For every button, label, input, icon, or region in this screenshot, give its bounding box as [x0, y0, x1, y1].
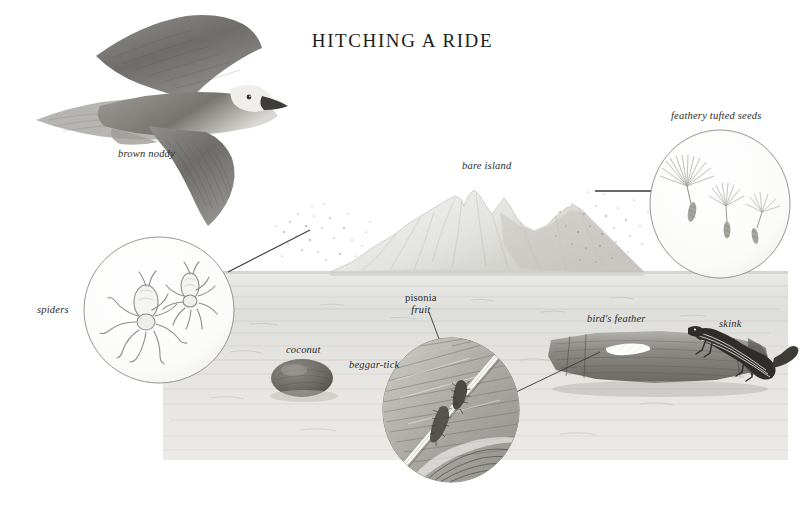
- label-beggar-tick: beggar-tick: [349, 359, 399, 371]
- label-pisonia-fruit: pisonia fruit: [405, 292, 437, 316]
- leader-spiders: [228, 230, 310, 272]
- spiders-magnifier: [84, 237, 234, 383]
- page-title: HITCHING A RIDE: [0, 30, 805, 52]
- label-bare-island: bare island: [462, 160, 511, 172]
- label-feathery-tufted-seeds: feathery tufted seeds: [671, 110, 762, 122]
- label-pisonia-line2: fruit: [405, 304, 437, 316]
- dot-cloud-left: [276, 204, 371, 261]
- feather-magnifier: [383, 338, 519, 484]
- label-pisonia-line1: pisonia: [405, 292, 437, 304]
- label-birds-feather: bird's feather: [587, 313, 646, 325]
- label-coconut: coconut: [286, 344, 321, 356]
- label-spiders: spiders: [37, 304, 69, 316]
- label-skink: skink: [719, 318, 742, 330]
- bare-island-artwork: [330, 190, 644, 276]
- seeds-magnifier: [650, 130, 790, 278]
- plate-artwork: [0, 0, 805, 511]
- illustration-plate: HITCHING A RIDE brown noddy bare island …: [0, 0, 805, 511]
- label-brown-noddy: brown noddy: [118, 148, 175, 160]
